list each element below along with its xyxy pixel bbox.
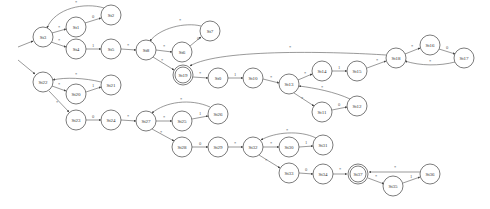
state-node-st2: St2 <box>101 5 121 25</box>
edge-st32-to-st30: * <box>263 141 279 147</box>
state-label: St36 <box>425 172 435 177</box>
state-label: St35 <box>388 184 398 189</box>
state-node-st11: St11 <box>312 102 332 122</box>
state-label: St20 <box>71 92 81 97</box>
edge-st3-to-st1: * <box>52 25 66 33</box>
edge-st34-to-st37: * <box>333 167 347 174</box>
edge-label: * <box>339 167 342 172</box>
edge-st14-to-st15: 1 <box>332 65 347 71</box>
state-node-st21: St21 <box>101 75 121 95</box>
edge-arrow <box>190 37 201 46</box>
edge-label: * <box>394 165 397 170</box>
edge-st15-to-st18: * <box>367 58 386 68</box>
state-label: St7 <box>207 29 214 34</box>
edge-label: * <box>411 44 414 49</box>
edge-st7-to-st8: * <box>150 18 201 41</box>
edge-arrow <box>18 60 35 74</box>
edge-arrow <box>259 155 280 168</box>
edge-st8-to-st19: * <box>153 57 174 70</box>
edge-st36-to-st37: * <box>369 165 420 172</box>
edge-label: * <box>270 75 273 80</box>
state-node-st28: St28 <box>172 137 192 157</box>
edge-st37-to-st35: * <box>368 174 384 184</box>
edge-st27-to-st25: * <box>156 115 172 121</box>
edge-arrow <box>153 57 174 70</box>
state-node-st37: St37 <box>348 164 368 184</box>
edge-arrow <box>18 41 33 47</box>
edge-st26-to-st27: * <box>152 97 210 113</box>
state-node-st1: St1 <box>66 17 86 37</box>
edge-label: * <box>127 43 130 48</box>
edge-label: * <box>429 59 432 64</box>
edge-label: * <box>286 128 289 133</box>
edge-start-to-st22 <box>18 60 35 74</box>
state-node-st30: St30 <box>279 137 299 157</box>
state-label: St29 <box>213 145 223 150</box>
state-node-st16: St16 <box>420 35 440 55</box>
edge-label: * <box>58 38 61 43</box>
edge-st25-to-st26: 1 <box>192 111 208 119</box>
edge-label: * <box>163 115 166 120</box>
edge-st33-to-st34: 0 <box>299 167 313 174</box>
state-node-st15: St15 <box>347 61 367 81</box>
state-label: St33 <box>284 171 294 176</box>
edge-label: 1 <box>92 43 94 48</box>
state-node-st7: St7 <box>200 21 220 41</box>
edge-label: * <box>75 72 78 77</box>
edge-st18-to-st16: * <box>405 44 420 54</box>
edge-label: * <box>75 0 78 5</box>
state-label: St28 <box>177 145 187 150</box>
edge-st32-to-st33: * <box>259 155 280 168</box>
state-label: St5 <box>108 47 115 52</box>
edge-st20-to-st21: 1 <box>86 83 101 92</box>
edge-st30-to-st31: 1 <box>299 140 313 147</box>
state-label: St13 <box>284 82 294 87</box>
edge-st22-to-st20: * <box>52 82 66 91</box>
state-node-st12: St12 <box>347 96 367 116</box>
state-label: St16 <box>425 43 435 48</box>
state-label: St8 <box>143 48 150 53</box>
state-label: St27 <box>141 119 151 124</box>
edge-arrow <box>150 25 201 41</box>
state-label: St12 <box>352 104 362 109</box>
state-node-st3: St3 <box>33 27 53 47</box>
state-label: St18 <box>391 56 401 61</box>
edge-st4-to-st5: 1 <box>86 43 101 49</box>
state-node-st36: St36 <box>420 164 440 184</box>
edge-label: * <box>199 71 202 76</box>
edge-label: 0 <box>305 167 308 172</box>
edge-label: 1 <box>92 83 94 88</box>
edge-arrow <box>294 93 314 106</box>
edge-arrow <box>332 107 347 110</box>
edge-label: * <box>127 114 130 119</box>
edge-label: * <box>375 174 378 179</box>
state-label: St23 <box>71 118 81 123</box>
edge-st0-to-st10: 1 <box>228 72 243 78</box>
edge-label: * <box>321 85 324 90</box>
state-node-st17: St17 <box>454 48 474 68</box>
state-node-st23: St23 <box>66 110 86 130</box>
state-node-st6: St6 <box>172 42 192 62</box>
edge-label: * <box>234 141 237 146</box>
edge-st13-to-st14: * <box>298 71 312 80</box>
state-label: St19 <box>178 73 188 78</box>
edge-label: * <box>376 58 379 63</box>
state-node-st31: St31 <box>313 135 333 155</box>
edge-st17-to-st18: * <box>405 59 455 65</box>
edge-label: * <box>160 130 163 135</box>
edge-label: * <box>58 82 61 87</box>
edge-st5-to-st8: * <box>121 43 136 50</box>
edge-st35-to-st36: 1 <box>403 174 420 183</box>
state-label: St25 <box>177 119 187 124</box>
state-label: St17 <box>459 56 469 61</box>
edge-label: 1 <box>305 140 307 145</box>
edge-label: 0 <box>199 141 202 146</box>
state-node-st5: St5 <box>101 39 121 59</box>
state-node-st25: St25 <box>172 111 192 131</box>
state-label: St30 <box>284 145 294 150</box>
edge-arrow <box>299 86 350 99</box>
edge-arrow <box>121 49 136 50</box>
edge-st13-to-st11: * <box>294 93 314 106</box>
state-node-st14: St14 <box>312 61 332 81</box>
state-node-st27: St27 <box>136 111 156 131</box>
